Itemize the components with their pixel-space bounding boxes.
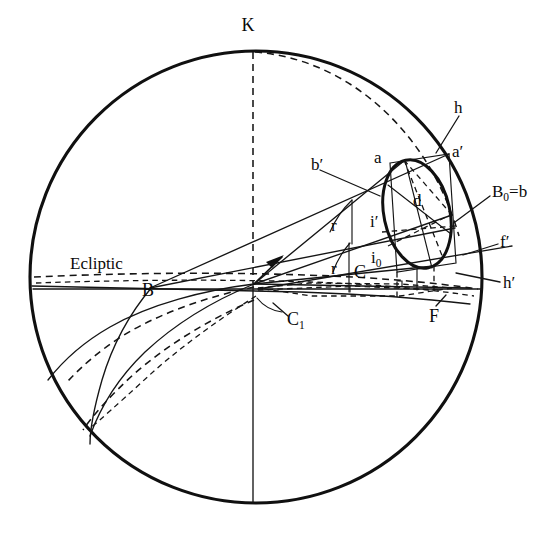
figure-container: K Ecliptic B C1 C r r i′ i0 d a a′ b′ h … [0,0,558,553]
leader-c1 [273,303,288,316]
label-b-point: B [142,280,154,300]
label-r-lower: r [331,259,337,278]
label-ecliptic: Ecliptic [70,254,123,273]
radius-line-to-a [254,160,405,284]
orbit-great-circle-upper-dashed [255,52,459,236]
celestial-sphere-diagram: K Ecliptic B C1 C r r i′ i0 d a a′ b′ h … [0,0,558,553]
sphere-outline-circle [30,51,482,503]
orbit-arc-dashed-lower [88,296,256,430]
label-a-prime: a′ [452,142,463,161]
label-c1: C1 [287,309,305,331]
label-h-prime: h′ [503,273,515,292]
orbit-arc-solid-from-B [90,287,152,444]
label-k: K [242,15,255,35]
label-i0: i0 [371,248,382,269]
orbit-arc-dashed-mid [83,300,254,430]
label-b-prime: b′ [311,155,323,174]
label-f-prime: f′ [500,232,509,251]
label-f: F [429,306,439,326]
ellipse-dashed-chord-1 [404,160,443,258]
label-a: a [374,148,382,167]
label-h: h [454,98,463,117]
label-i-prime: i′ [370,212,378,231]
line-origin-to-f-prime [258,246,512,289]
label-r-upper: r [331,216,337,235]
angle-arc-c1 [257,298,282,312]
orbit-arc-dashed-upper [68,287,254,381]
leader-B0 [455,196,490,222]
orbit-arc-solid-lower [90,284,254,436]
label-d: d [413,191,422,210]
label-c: C [354,262,366,282]
leader-b-prime [320,170,380,196]
label-b0-equals-b: B0=b [492,182,527,203]
leader-h-prime [456,273,500,282]
